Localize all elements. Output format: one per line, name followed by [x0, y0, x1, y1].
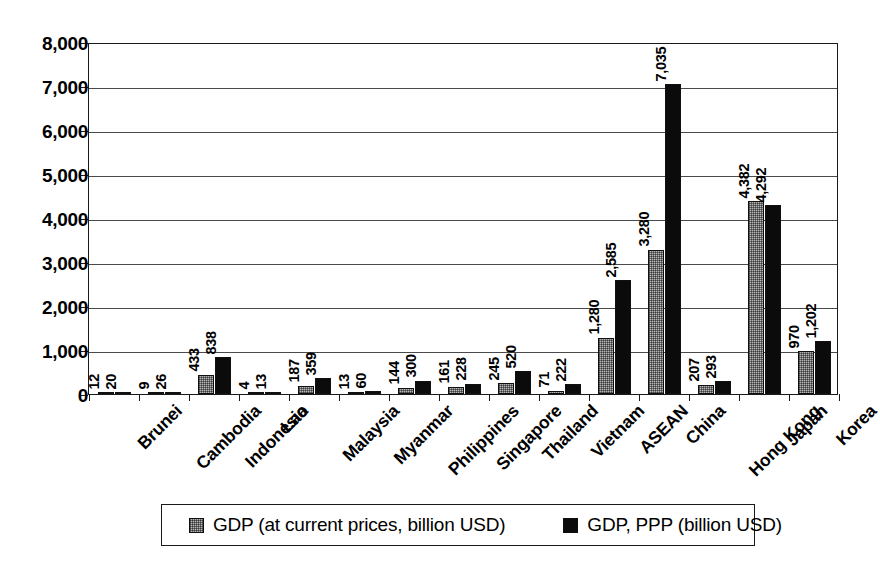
x-axis-tick-mark [189, 394, 190, 401]
y-axis-tick-label: 0 [12, 386, 88, 405]
bar-value-label: 4,382 [736, 163, 751, 198]
x-axis-category-label: China [683, 402, 729, 448]
bar-value-label: 187 [286, 359, 301, 382]
bar-value-label: 293 [703, 355, 718, 378]
bar-value-label: 1,202 [803, 303, 818, 338]
bar-value-label: 60 [353, 373, 368, 389]
x-axis-tick-mark [289, 394, 290, 401]
x-axis-tick-mark [689, 394, 690, 401]
bar-value-label: 970 [786, 325, 801, 348]
x-axis-tick-mark [389, 394, 390, 401]
bar-value-label: 9 [136, 381, 151, 389]
bar-value-label: 520 [503, 345, 518, 368]
bar-value-label: 4 [236, 381, 251, 389]
y-axis-tick-label: 4,000 [12, 210, 88, 229]
x-axis-tick-mark [589, 394, 590, 401]
x-axis-tick-mark [239, 394, 240, 401]
bar-gdp-current: 71 [548, 391, 564, 394]
bar-gdp-ppp: 60 [365, 391, 381, 394]
bar-value-label: 433 [186, 349, 201, 372]
y-axis-tick-label: 2,000 [12, 298, 88, 317]
y-axis-tick-label: 5,000 [12, 166, 88, 185]
gray-checkered-swatch-icon [189, 518, 204, 533]
bar-gdp-current: 9 [148, 392, 164, 394]
x-axis-tick-mark [489, 394, 490, 401]
x-axis-category-label: Brunei [135, 402, 186, 453]
bar-group: 9701,202 [789, 44, 839, 394]
bar-value-label: 222 [553, 358, 568, 381]
x-axis-tick-mark [739, 394, 740, 401]
bar-gdp-ppp: 1,202 [815, 341, 831, 394]
y-axis-tick-label: 3,000 [12, 254, 88, 273]
bar-group: 433838 [189, 44, 239, 394]
x-axis-tick-mark [839, 394, 840, 401]
y-axis-tick-label: 7,000 [12, 78, 88, 97]
x-axis-category-label: Korea [833, 402, 880, 449]
bar-group: 161228 [439, 44, 489, 394]
bar-value-label: 838 [203, 331, 218, 354]
bar-group: 3,2807,035 [639, 44, 689, 394]
x-axis-tick-mark [339, 394, 340, 401]
bar-gdp-current: 3,280 [648, 250, 664, 394]
bar-group: 144300 [389, 44, 439, 394]
bar-gdp-current: 144 [398, 388, 414, 394]
bar-value-label: 300 [403, 355, 418, 378]
bar-gdp-ppp: 293 [715, 381, 731, 394]
y-axis-tick-label: 1,000 [12, 342, 88, 361]
legend-item-gdp-ppp: GDP, PPP (billion USD) [563, 514, 781, 536]
x-axis-category-label: Japan [784, 402, 831, 449]
x-axis-tick-mark [139, 394, 140, 401]
bar-gdp-ppp: 222 [565, 384, 581, 394]
bar-gdp-ppp: 359 [315, 378, 331, 394]
bar-value-label: 2,585 [603, 242, 618, 277]
bar-group: 413 [239, 44, 289, 394]
chart-legend: GDP (at current prices, billion USD) GDP… [161, 504, 755, 546]
bar-gdp-current: 970 [798, 351, 814, 394]
bar-value-label: 20 [103, 373, 118, 389]
x-axis-tick-mark [539, 394, 540, 401]
bar-group: 245520 [489, 44, 539, 394]
bar-gdp-current: 4,382 [748, 201, 764, 394]
bar-value-label: 359 [303, 352, 318, 375]
bar-value-label: 1,280 [586, 300, 601, 335]
bar-gdp-ppp: 520 [515, 371, 531, 394]
bar-group: 926 [139, 44, 189, 394]
x-axis-tick-mark [89, 394, 90, 401]
bar-value-label: 4,292 [753, 167, 768, 202]
y-axis: 01,0002,0003,0004,0005,0006,0007,0008,00… [0, 0, 88, 581]
bar-value-label: 12 [86, 373, 101, 389]
bar-gdp-current: 12 [98, 392, 114, 394]
bar-group: 1220 [89, 44, 139, 394]
bar-gdp-current: 245 [498, 383, 514, 394]
bar-value-label: 161 [436, 361, 451, 384]
legend-label-gdp-current: GDP (at current prices, billion USD) [213, 514, 505, 536]
bar-value-label: 207 [686, 359, 701, 382]
bar-gdp-ppp: 20 [115, 392, 131, 394]
bar-value-label: 144 [386, 361, 401, 384]
plot-area: 1220926433838413187359136014430016122824… [88, 43, 838, 395]
bar-gdp-current: 207 [698, 385, 714, 394]
bar-gdp-current: 13 [348, 392, 364, 394]
bar-group: 1,2802,585 [589, 44, 639, 394]
bar-group: 4,3824,292 [739, 44, 789, 394]
bar-value-label: 7,035 [653, 47, 668, 82]
bar-value-label: 245 [486, 357, 501, 380]
bar-gdp-current: 4 [248, 392, 264, 394]
bar-value-label: 228 [453, 358, 468, 381]
bar-value-label: 13 [253, 373, 268, 389]
bar-gdp-ppp: 7,035 [665, 84, 681, 394]
bar-group: 71222 [539, 44, 589, 394]
x-axis-tick-mark [439, 394, 440, 401]
bar-gdp-current: 187 [298, 386, 314, 394]
bar-group: 207293 [689, 44, 739, 394]
bar-value-label: 71 [536, 372, 551, 388]
bar-gdp-current: 433 [198, 375, 214, 394]
y-axis-tick-label: 8,000 [12, 34, 88, 53]
bar-gdp-current: 161 [448, 387, 464, 394]
bar-value-label: 13 [336, 373, 351, 389]
bar-gdp-ppp: 2,585 [615, 280, 631, 394]
bar-gdp-ppp: 13 [265, 392, 281, 394]
bar-group: 1360 [339, 44, 389, 394]
legend-label-gdp-ppp: GDP, PPP (billion USD) [587, 514, 781, 536]
